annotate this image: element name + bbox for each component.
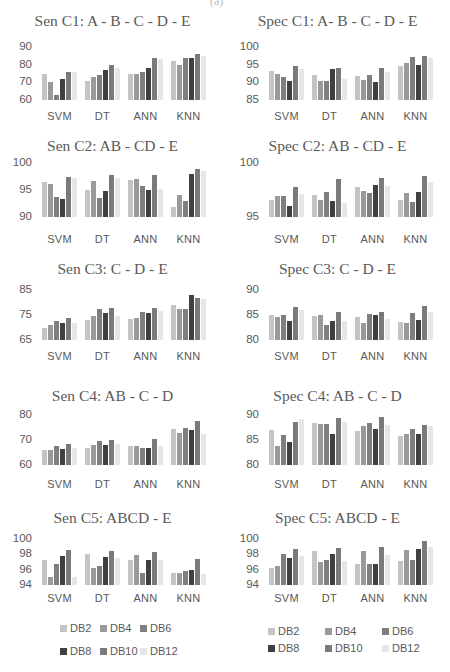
bar-db4-svm [275, 446, 280, 465]
bar-db8-dt [103, 313, 108, 341]
bar-db8-svm [60, 449, 65, 465]
bar-db6-dt [97, 75, 102, 100]
y-axis-tick-label: 70 [4, 75, 32, 87]
bar-db4-ann [134, 555, 139, 585]
bar-db8-knn [189, 58, 194, 100]
bar-db6-svm [54, 197, 59, 217]
bar-chart: Sen C2: AB - CD - E1009590SVMDTANNKNN [0, 125, 225, 250]
x-axis-category-label: KNN [167, 110, 211, 122]
bar-db4-dt [91, 568, 96, 585]
y-axis-tick-label: 60 [4, 93, 32, 105]
bar-db4-dt [318, 562, 323, 585]
bar-db10-svm [293, 549, 298, 585]
bar-db4-knn [177, 309, 182, 340]
bar-db8-svm [287, 206, 292, 217]
bar-db2-dt [312, 551, 317, 586]
bar-db2-dt [85, 81, 90, 100]
bar-db4-svm [275, 196, 280, 217]
bar-db8-knn [416, 434, 421, 466]
bar-db8-knn [416, 192, 421, 217]
bar-db6-ann [367, 423, 372, 465]
bar-db12-dt [115, 68, 120, 100]
bar-db10-ann [379, 68, 384, 100]
bar-db2-dt [85, 448, 90, 466]
bar-db2-ann [128, 446, 133, 465]
y-axis-tick-label: 100 [231, 532, 259, 544]
bar-db12-knn [428, 312, 433, 340]
bar-db6-dt [324, 81, 329, 100]
bar-db4-svm [48, 184, 53, 217]
bar-db8-ann [146, 560, 151, 585]
bar-db4-ann [134, 74, 139, 101]
legend-item-db12: DB12 [140, 645, 178, 657]
legend-swatch-icon [60, 648, 67, 655]
bar-db12-ann [158, 560, 163, 585]
bar-db4-knn [177, 573, 182, 585]
bar-db2-svm [269, 430, 274, 465]
y-axis-tick-label: 95 [4, 183, 32, 195]
bar-db6-ann [367, 314, 372, 341]
legend-swatch-icon [382, 645, 389, 652]
bar-db12-dt [115, 178, 120, 217]
x-axis-category-label: KNN [394, 110, 438, 122]
x-axis-category-label: DT [81, 350, 125, 362]
x-axis-category-label: SVM [38, 110, 82, 122]
bar-db10-knn [195, 54, 200, 100]
y-axis-tick-label: 65 [4, 333, 32, 345]
bar-db12-svm [299, 419, 304, 465]
bar-db8-svm [60, 323, 65, 341]
bar-db10-dt [336, 548, 341, 585]
bar-db6-dt [97, 198, 102, 217]
bar-db12-ann [385, 319, 390, 341]
bar-db6-ann [367, 193, 372, 217]
legend-item-db6: DB6 [382, 625, 413, 637]
legend-item-db10: DB10 [100, 645, 138, 657]
bar-db10-ann [152, 552, 157, 585]
plot-area [38, 415, 210, 465]
bar-db6-knn [183, 201, 188, 217]
bar-db10-svm [66, 177, 71, 218]
chart-title: Sen C4: AB - C - D [0, 387, 225, 405]
bar-db10-svm [66, 72, 71, 100]
bar-db10-ann [152, 175, 157, 217]
bar-db6-dt [97, 441, 102, 465]
bar-db12-svm [72, 178, 77, 217]
bar-db8-dt [103, 557, 108, 585]
bar-db12-knn [428, 426, 433, 465]
bar-db8-svm [287, 81, 292, 100]
bar-db12-dt [342, 79, 347, 100]
bar-db4-knn [404, 323, 409, 340]
bar-db2-knn [398, 322, 403, 340]
y-axis-tick-label: 90 [231, 75, 259, 87]
plot-area [38, 290, 210, 340]
y-axis-tick-label: 85 [231, 308, 259, 320]
y-axis-tick-label: 98 [4, 547, 32, 559]
bar-db8-knn [416, 320, 421, 340]
bar-db10-dt [336, 179, 341, 217]
legend-label: DB12 [150, 645, 178, 657]
legend-item-db6: DB6 [140, 622, 171, 634]
x-axis-category-label: ANN [124, 592, 168, 604]
y-axis-tick-label: 70 [4, 433, 32, 445]
legend-item-db2: DB2 [268, 625, 299, 637]
bar-db6-knn [183, 571, 188, 585]
bar-db6-dt [97, 566, 102, 585]
y-axis-tick-label: 80 [4, 58, 32, 70]
bar-db12-knn [428, 182, 433, 217]
chart-title: Sen C1: A - B - C - D - E [0, 12, 225, 30]
bar-db8-svm [60, 79, 65, 100]
bar-db12-dt [342, 561, 347, 585]
bar-db6-knn [410, 429, 415, 466]
legend-swatch-icon [268, 645, 275, 652]
bar-db10-ann [379, 312, 384, 340]
bar-db12-knn [428, 547, 433, 585]
x-axis-category-label: ANN [124, 350, 168, 362]
bar-db4-knn [177, 65, 182, 100]
bar-db8-dt [103, 445, 108, 465]
bar-db2-knn [398, 200, 403, 217]
y-axis-tick-label: 94 [231, 578, 259, 590]
bar-db4-ann [134, 446, 139, 465]
bar-db10-knn [195, 421, 200, 465]
bar-db2-svm [269, 568, 274, 585]
chart-title: Sen C3: C - D - E [0, 260, 225, 278]
